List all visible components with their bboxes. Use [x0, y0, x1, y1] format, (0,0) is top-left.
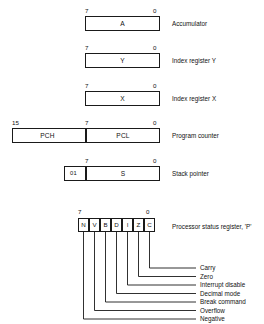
register-cell-label-pch: PCH — [13, 132, 82, 139]
bit-number-high: 7 — [85, 83, 88, 89]
bit-number-high: 7 — [78, 209, 81, 215]
register-cell-label: Y — [86, 57, 159, 64]
status-bit-symbol: V — [90, 222, 99, 228]
register-cell-label-pcl: PCL — [87, 132, 159, 139]
status-bit-z: Z — [133, 218, 144, 232]
status-bit-symbol: D — [112, 222, 121, 228]
register-cell-label: X — [86, 95, 159, 102]
bit-number-low: 0 — [153, 158, 156, 164]
register-label-accumulator: Accumulator — [172, 21, 207, 27]
bit-number-low: 0 — [153, 8, 156, 14]
status-bit-i: I — [122, 218, 133, 232]
status-bit-symbol: Z — [134, 222, 143, 228]
flag-label-break-command: Break command — [200, 299, 246, 305]
flag-label-zero: Zero — [200, 274, 213, 280]
leader-line-zero — [139, 232, 197, 277]
status-bit-symbol: I — [123, 222, 132, 228]
status-bit-c: C — [144, 218, 155, 232]
flag-label-overflow: Overflow — [200, 308, 225, 314]
register-box-index-y: Y — [85, 53, 160, 68]
leader-line-carry — [150, 232, 197, 268]
bit-number-high: 7 — [85, 158, 88, 164]
register-label-processor-status: Processor status register, 'P' — [172, 224, 251, 230]
leader-line-decimal-mode — [117, 232, 197, 294]
status-bit-d: D — [111, 218, 122, 232]
bit-number-high: 7 — [85, 8, 88, 14]
status-bit-symbol: C — [145, 222, 154, 228]
leader-line-negative — [84, 232, 197, 319]
bit-number-low: 0 — [153, 45, 156, 51]
register-box-accumulator: A — [85, 16, 160, 31]
leader-line-break-command — [106, 232, 197, 302]
bit-number-low: 0 — [153, 83, 156, 89]
bit-number-high: 15 — [12, 120, 19, 126]
status-bit-v: V — [89, 218, 100, 232]
status-bit-symbol: B — [101, 222, 110, 228]
status-bit-n: N — [78, 218, 89, 232]
flag-leader-lines — [0, 0, 264, 324]
bit-number-mid: 7 — [85, 120, 88, 126]
register-label-stack-pointer: Stack pointer — [172, 171, 209, 177]
bit-number-high: 7 — [85, 45, 88, 51]
register-box-stack-pointer: 01 S — [64, 166, 160, 181]
cpu-register-diagram: 7 0 A Accumulator 7 0 Y Index register Y… — [0, 0, 264, 324]
register-cell-label-page: 01 — [65, 171, 82, 177]
register-box-program-counter: PCH PCL — [12, 128, 160, 143]
leader-line-interrupt-disable — [128, 232, 197, 285]
bit-number-low: 0 — [146, 209, 149, 215]
leader-line-overflow — [95, 232, 197, 311]
bit-number-low: 0 — [153, 120, 156, 126]
register-cell-label-s: S — [87, 170, 159, 177]
flag-label-decimal-mode: Decimal mode — [200, 291, 240, 297]
register-box-index-x: X — [85, 91, 160, 106]
flag-label-negative: Negative — [200, 316, 225, 322]
flag-label-carry: Carry — [200, 265, 215, 271]
register-cell-label: A — [86, 20, 159, 27]
register-label-index-y: Index register Y — [172, 58, 216, 64]
register-label-index-x: Index register X — [172, 96, 216, 102]
status-bit-symbol: N — [79, 222, 88, 228]
register-label-program-counter: Program counter — [172, 133, 219, 139]
flag-label-interrupt-disable: Interrupt disable — [200, 282, 245, 288]
status-bit-b: B — [100, 218, 111, 232]
